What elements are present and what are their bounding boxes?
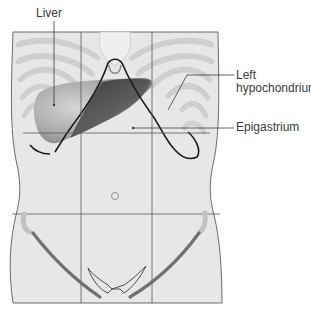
epigastrium-leader-dot: [132, 127, 134, 129]
left-hypochondrium-label-line2: hypochondrium: [236, 82, 311, 95]
left-hypochondrium-label: Left hypochondrium: [236, 69, 311, 95]
torso-illustration: [0, 0, 311, 313]
abdominal-regions-diagram: Liver Left hypochondrium Epigastrium: [0, 0, 311, 313]
liver-leader-dot: [53, 104, 55, 106]
epigastrium-label: Epigastrium: [236, 121, 299, 134]
liver-label: Liver: [36, 7, 62, 20]
